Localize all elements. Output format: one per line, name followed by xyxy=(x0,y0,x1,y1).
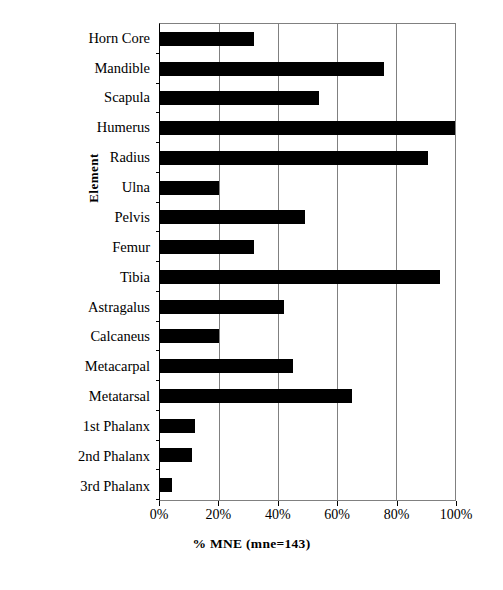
bar xyxy=(160,419,195,433)
category-label: Astragalus xyxy=(30,292,156,322)
bar-row xyxy=(160,232,455,262)
bar xyxy=(160,329,219,343)
bar xyxy=(160,91,319,105)
category-label: Tibia xyxy=(30,262,156,292)
bar xyxy=(160,62,384,76)
category-label: Pelvis xyxy=(30,202,156,232)
bar xyxy=(160,210,305,224)
bar xyxy=(160,181,219,195)
bar xyxy=(160,32,254,46)
category-label: Femur xyxy=(30,232,156,262)
bar-rows xyxy=(160,24,455,500)
category-label: Metatarsal xyxy=(30,382,156,412)
bar-row xyxy=(160,470,455,500)
bar-row xyxy=(160,381,455,411)
category-label: 2nd Phalanx xyxy=(30,441,156,471)
bar-row xyxy=(160,351,455,381)
bar xyxy=(160,151,428,165)
category-label: Metacarpal xyxy=(30,352,156,382)
category-label: Ulna xyxy=(30,172,156,202)
x-axis-tick xyxy=(397,501,398,506)
bar xyxy=(160,359,293,373)
category-label: 1st Phalanx xyxy=(30,411,156,441)
x-axis-title: % MNE (mne=143) xyxy=(0,536,503,552)
bar-row xyxy=(160,24,455,54)
plot-area xyxy=(159,23,456,501)
x-axis-tick-labels: 0%20%40%60%80%100% xyxy=(119,507,496,527)
x-axis-tick xyxy=(218,501,219,506)
bar xyxy=(160,270,440,284)
x-axis-tick-label: 100% xyxy=(416,507,496,523)
x-axis-ticks xyxy=(159,501,456,506)
bar-row xyxy=(160,54,455,84)
category-label: Humerus xyxy=(30,113,156,143)
gridline xyxy=(455,24,456,500)
x-axis-tick xyxy=(159,501,160,506)
y-axis-category-labels: Horn CoreMandibleScapulaHumerusRadiusUln… xyxy=(30,23,156,501)
bar-row xyxy=(160,113,455,143)
bar xyxy=(160,300,284,314)
bar xyxy=(160,121,455,135)
x-axis-tick xyxy=(278,501,279,506)
bar-row xyxy=(160,203,455,233)
bar-row xyxy=(160,84,455,114)
category-label: Horn Core xyxy=(30,23,156,53)
category-label: Radius xyxy=(30,143,156,173)
bar xyxy=(160,389,352,403)
bar-row xyxy=(160,292,455,322)
bar-row xyxy=(160,322,455,352)
category-label: Scapula xyxy=(30,83,156,113)
x-axis-tick xyxy=(456,501,457,506)
y-axis-tick xyxy=(156,499,160,500)
bar-row xyxy=(160,262,455,292)
bar xyxy=(160,240,254,254)
category-label: 3rd Phalanx xyxy=(30,471,156,501)
category-label: Calcaneus xyxy=(30,322,156,352)
category-label: Mandible xyxy=(30,53,156,83)
bar-row xyxy=(160,173,455,203)
bar-row xyxy=(160,143,455,173)
bar xyxy=(160,448,192,462)
bar xyxy=(160,478,172,492)
bar-row xyxy=(160,411,455,441)
bar-row xyxy=(160,441,455,471)
x-axis-tick xyxy=(337,501,338,506)
bar-chart: Element Horn CoreMandibleScapulaHumerusR… xyxy=(0,0,503,590)
